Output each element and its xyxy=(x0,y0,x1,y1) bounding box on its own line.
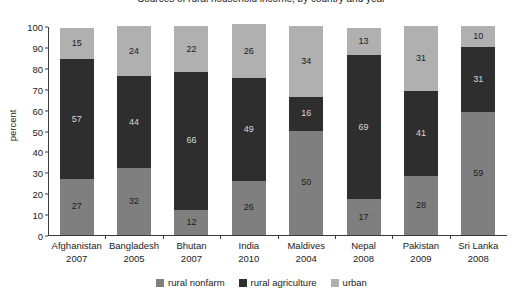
bar-segment-rural-agriculture[interactable]: 41 xyxy=(404,91,438,177)
legend-label: rural nonfarm xyxy=(168,277,225,288)
y-axis-tick-mark xyxy=(45,47,48,48)
x-axis-category-label: Bangladesh2005 xyxy=(105,240,162,266)
bar-segment-value: 66 xyxy=(186,136,196,145)
bar-segment-rural-nonfarm[interactable]: 17 xyxy=(347,199,381,235)
bar-stack[interactable]: 176913 xyxy=(347,26,381,235)
legend-label: urban xyxy=(343,277,367,288)
y-axis-tick-label: 80 xyxy=(32,63,43,74)
bar-segment-urban[interactable]: 24 xyxy=(117,26,151,76)
category-name: Bangladesh xyxy=(109,240,159,251)
x-axis-tick-mark xyxy=(220,236,221,239)
bar-stack[interactable]: 593110 xyxy=(461,26,495,235)
bar-stack[interactable]: 501634 xyxy=(289,26,323,235)
bar-segment-value: 28 xyxy=(416,201,426,210)
bar-segment-rural-nonfarm[interactable]: 50 xyxy=(289,131,323,236)
category-name: Sri Lanka xyxy=(458,240,498,251)
x-axis-category-label: Bhutan2007 xyxy=(163,240,220,266)
bar-segment-value: 10 xyxy=(473,32,483,41)
bar-segment-rural-nonfarm[interactable]: 59 xyxy=(461,112,495,235)
legend-label: rural agriculture xyxy=(251,277,317,288)
y-axis-tick-label: 10 xyxy=(32,210,43,221)
bar-segment-rural-agriculture[interactable]: 44 xyxy=(117,76,151,168)
category-year: 2008 xyxy=(335,253,392,266)
y-axis-tick-mark xyxy=(45,215,48,216)
x-axis-category-label: India2010 xyxy=(220,240,277,266)
legend-item-rural-nonfarm[interactable]: rural nonfarm xyxy=(156,277,225,288)
bar-stack[interactable]: 264926 xyxy=(232,26,266,235)
bar-segment-urban[interactable]: 22 xyxy=(174,26,208,72)
legend-item-rural-agriculture[interactable]: rural agriculture xyxy=(239,277,317,288)
bar-segment-rural-nonfarm[interactable]: 27 xyxy=(60,179,94,235)
bar-segment-value: 57 xyxy=(72,115,82,124)
bar-segment-value: 13 xyxy=(359,37,369,46)
bar-segment-rural-nonfarm[interactable]: 26 xyxy=(232,181,266,235)
bar-segment-rural-agriculture[interactable]: 69 xyxy=(347,55,381,199)
bar-segment-value: 34 xyxy=(301,57,311,66)
bar-segment-rural-agriculture[interactable]: 66 xyxy=(174,72,208,210)
legend-item-urban[interactable]: urban xyxy=(331,277,367,288)
bar-segment-value: 24 xyxy=(129,47,139,56)
chart-legend: rural nonfarmrural agricultureurban xyxy=(0,277,523,288)
category-year: 2005 xyxy=(105,253,162,266)
x-axis-category-label: Sri Lanka2008 xyxy=(450,240,507,266)
bar-segment-value: 32 xyxy=(129,197,139,206)
bar-segment-value: 12 xyxy=(186,218,196,227)
x-axis-tick-mark xyxy=(278,236,279,239)
y-axis-tick-label: 20 xyxy=(32,189,43,200)
bar-stack[interactable]: 284131 xyxy=(404,26,438,235)
bar-segment-rural-nonfarm[interactable]: 28 xyxy=(404,176,438,235)
category-name: Bhutan xyxy=(176,240,206,251)
category-year: 2009 xyxy=(392,253,449,266)
bar-segment-urban[interactable]: 26 xyxy=(232,24,266,78)
bar-segment-value: 44 xyxy=(129,118,139,127)
legend-swatch xyxy=(156,279,164,287)
y-axis-tick-label: 100 xyxy=(27,22,43,33)
chart-title: Sources of rural household income, by co… xyxy=(0,0,523,4)
x-axis-category-label: Maldives2004 xyxy=(278,240,335,266)
x-axis-tick-mark xyxy=(392,236,393,239)
bar-segment-rural-agriculture[interactable]: 49 xyxy=(232,78,266,180)
category-year: 2010 xyxy=(220,253,277,266)
category-year: 2004 xyxy=(278,253,335,266)
y-axis-tick-label: 30 xyxy=(32,168,43,179)
x-axis-category-label: Pakistan2009 xyxy=(392,240,449,266)
y-axis-tick-mark xyxy=(45,152,48,153)
y-axis-tick-mark xyxy=(45,68,48,69)
bar-segment-value: 17 xyxy=(359,213,369,222)
x-axis-tick-mark xyxy=(163,236,164,239)
y-axis-tick-label: 90 xyxy=(32,42,43,53)
bar-segment-urban[interactable]: 13 xyxy=(347,28,381,55)
bar-segment-urban[interactable]: 31 xyxy=(404,26,438,91)
bar-segment-rural-nonfarm[interactable]: 12 xyxy=(174,210,208,235)
bar-segment-urban[interactable]: 15 xyxy=(60,28,94,59)
y-axis-tick-mark xyxy=(45,194,48,195)
category-name: India xyxy=(239,240,260,251)
x-axis-category-label: Afghanistan2007 xyxy=(48,240,105,266)
y-axis-tick-label: 60 xyxy=(32,105,43,116)
x-axis-tick-mark xyxy=(335,236,336,239)
bar-segment-value: 27 xyxy=(72,202,82,211)
bar-segment-rural-agriculture[interactable]: 57 xyxy=(60,59,94,178)
bar-stack[interactable]: 126622 xyxy=(174,26,208,235)
bar-segment-rural-agriculture[interactable]: 16 xyxy=(289,97,323,130)
bar-segment-value: 31 xyxy=(416,54,426,63)
bar-segment-urban[interactable]: 34 xyxy=(289,26,323,97)
bar-stack[interactable]: 324424 xyxy=(117,26,151,235)
bar-segment-rural-nonfarm[interactable]: 32 xyxy=(117,168,151,235)
y-axis-line xyxy=(48,27,49,236)
y-axis-tick-label: 40 xyxy=(32,147,43,158)
category-year: 2007 xyxy=(48,253,105,266)
y-axis-tick-label: 0 xyxy=(38,231,43,242)
bar-segment-value: 49 xyxy=(244,125,254,134)
y-axis-tick-mark xyxy=(45,110,48,111)
bar-segment-urban[interactable]: 10 xyxy=(461,26,495,47)
bar-segment-value: 15 xyxy=(72,39,82,48)
x-axis-tick-mark xyxy=(450,236,451,239)
category-year: 2008 xyxy=(450,253,507,266)
y-axis-label: percent xyxy=(7,96,18,156)
y-axis-tick-label: 50 xyxy=(32,126,43,137)
bar-segment-value: 16 xyxy=(301,109,311,118)
legend-swatch xyxy=(239,279,247,287)
bar-stack[interactable]: 275715 xyxy=(60,26,94,235)
bar-segment-rural-agriculture[interactable]: 31 xyxy=(461,47,495,112)
